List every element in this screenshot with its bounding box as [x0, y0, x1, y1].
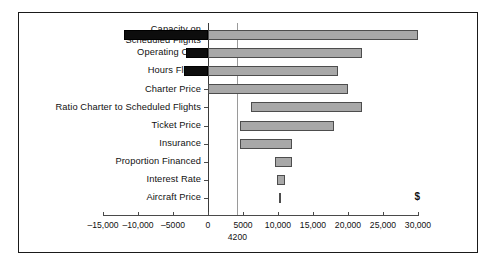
plot-area: Capacity on Scheduled FlightsOperating C… [19, 13, 479, 254]
bar-negative-segment [184, 66, 209, 76]
category-label: Interest Rate [21, 174, 201, 185]
x-axis-tick-label: 25,000 [370, 220, 396, 230]
category-tick [204, 198, 208, 199]
bar-positive-segment [240, 121, 335, 131]
bar-positive-segment [251, 102, 362, 112]
category-label: Aircraft Price [21, 192, 201, 203]
bar-positive-segment [240, 139, 293, 149]
bar-positive-segment [208, 48, 362, 58]
category-tick [204, 144, 208, 145]
category-label: Operating Cost [21, 47, 201, 58]
x-axis-tick [173, 212, 174, 216]
bar-positive-segment [208, 84, 348, 94]
x-axis-tick [383, 212, 384, 216]
x-axis-tick-label: –10,000 [122, 220, 153, 230]
bar-positive-segment [279, 193, 281, 203]
x-axis-tick [418, 212, 419, 216]
category-tick [204, 180, 208, 181]
currency-unit-symbol: $ [415, 191, 421, 202]
x-axis-tick [278, 212, 279, 216]
x-axis-tick [243, 212, 244, 216]
category-label: Proportion Financed [21, 156, 201, 167]
category-tick [204, 162, 208, 163]
bar-negative-segment [186, 48, 208, 58]
x-axis-tick-label: –15,000 [87, 220, 118, 230]
category-label: Ratio Charter to Scheduled Flights [21, 102, 201, 113]
x-axis-tick-label: 10,000 [265, 220, 291, 230]
x-axis-tick-label: 30,000 [405, 220, 431, 230]
x-axis-tick-label: 0 [206, 220, 211, 230]
x-axis-tick-label: 15,000 [300, 220, 326, 230]
category-tick [204, 107, 208, 108]
value-axis-line [103, 215, 418, 216]
bar-positive-segment [277, 175, 285, 185]
x-axis-tick-label: 5000 [233, 220, 252, 230]
x-axis-tick [138, 212, 139, 216]
x-axis-tick-label: –5000 [161, 220, 185, 230]
category-tick [204, 126, 208, 127]
bar-positive-segment [208, 66, 338, 76]
x-axis-tick [348, 212, 349, 216]
bar-positive-segment [208, 30, 418, 40]
bar-positive-segment [275, 157, 293, 167]
bar-negative-segment [124, 30, 208, 40]
category-label: Hours Flown [21, 65, 201, 76]
base-value-label: 4200 [228, 232, 247, 242]
chart-frame: Capacity on Scheduled FlightsOperating C… [18, 12, 478, 253]
x-axis-tick-label: 20,000 [335, 220, 361, 230]
category-label: Ticket Price [21, 120, 201, 131]
x-axis-tick [313, 212, 314, 216]
category-label: Charter Price [21, 84, 201, 95]
x-axis-tick [103, 212, 104, 216]
category-label: Insurance [21, 138, 201, 149]
x-axis-tick [208, 212, 209, 216]
